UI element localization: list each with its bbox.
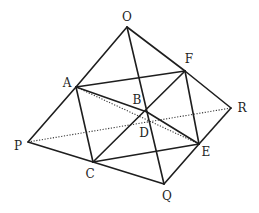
segment-QE	[164, 144, 199, 184]
point-label-R: R	[237, 101, 247, 115]
segment-OA	[76, 27, 127, 87]
segment-BE	[147, 112, 199, 144]
geometry-diagram: OFABRDPECQ	[0, 0, 259, 213]
dotted-lines	[28, 87, 231, 144]
segment-CA	[76, 87, 93, 162]
point-label-O: O	[122, 10, 132, 24]
point-label-D: D	[139, 126, 149, 140]
solid-lines	[28, 27, 231, 184]
point-label-B: B	[133, 93, 142, 107]
segment-AF	[76, 71, 185, 87]
segment-FE	[185, 71, 199, 144]
point-label-Q: Q	[162, 189, 172, 203]
point-label-E: E	[202, 145, 211, 159]
segment-ER	[199, 108, 231, 144]
segment-RF	[185, 71, 231, 108]
segment-CQ	[93, 162, 164, 184]
point-label-F: F	[185, 52, 193, 66]
segment-AP	[28, 87, 76, 142]
segment-PC	[28, 142, 93, 162]
point-label-C: C	[85, 167, 94, 181]
point-label-P: P	[14, 139, 22, 153]
point-label-A: A	[62, 76, 72, 90]
